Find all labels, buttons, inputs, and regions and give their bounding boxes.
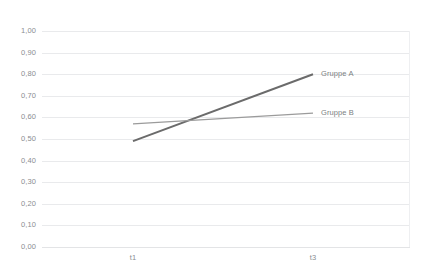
series-label-b: Gruppe B xyxy=(321,109,354,117)
series-label-a: Gruppe A xyxy=(321,70,354,78)
series-line-a xyxy=(133,74,313,141)
series-layer xyxy=(0,0,425,280)
line-chart: 1,000,900,800,700,600,500,400,300,200,10… xyxy=(0,0,425,280)
series-line-b xyxy=(133,113,313,124)
